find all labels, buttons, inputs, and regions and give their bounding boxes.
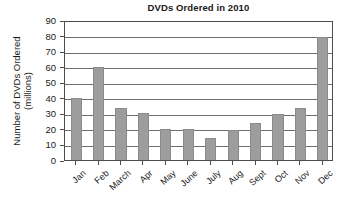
gridline: [65, 146, 332, 147]
bar-june: [183, 129, 194, 160]
y-axis-tick-label: 10: [0, 139, 56, 150]
bar-may: [160, 129, 171, 160]
x-axis-tick: [187, 161, 188, 165]
y-axis-tick: [60, 36, 64, 37]
bar-dec: [317, 37, 328, 160]
y-axis-tick-label: 70: [0, 46, 56, 57]
chart-screenshot: DVDs Ordered in 2010 Number of DVDs Orde…: [0, 0, 354, 199]
y-axis-tick: [60, 114, 64, 115]
x-axis-tick: [142, 161, 143, 165]
y-axis-tick: [60, 145, 64, 146]
y-axis-tick: [60, 67, 64, 68]
y-axis-tick: [60, 21, 64, 22]
x-axis-tick: [277, 161, 278, 165]
gridline: [65, 115, 332, 116]
gridline: [65, 130, 332, 131]
y-axis-tick: [60, 52, 64, 53]
y-axis-tick-label: 80: [0, 31, 56, 42]
bar-feb: [93, 67, 104, 160]
y-axis-tick-label: 90: [0, 15, 56, 26]
y-axis-tick: [60, 83, 64, 84]
bar-oct: [272, 114, 283, 160]
y-axis-tick-label: 0: [0, 155, 56, 166]
y-axis-tick-label: 30: [0, 108, 56, 119]
gridline: [65, 99, 332, 100]
gridline: [65, 68, 332, 69]
x-axis-tick: [232, 161, 233, 165]
chart-title: DVDs Ordered in 2010: [64, 2, 333, 13]
y-axis-tick-label: 50: [0, 77, 56, 88]
y-axis-tick-label: 60: [0, 62, 56, 73]
x-axis-tick: [120, 161, 121, 165]
x-axis-tick: [299, 161, 300, 165]
y-axis-tick-label: 40: [0, 93, 56, 104]
bar-nov: [295, 108, 306, 160]
bar-march: [115, 108, 126, 160]
x-axis-tick: [75, 161, 76, 165]
y-axis-tick: [60, 161, 64, 162]
bar-jan: [71, 98, 82, 160]
x-axis-tick: [210, 161, 211, 165]
y-axis-tick-label: 20: [0, 124, 56, 135]
gridline: [65, 84, 332, 85]
x-axis-tick: [98, 161, 99, 165]
x-axis-tick: [255, 161, 256, 165]
x-axis-tick: [165, 161, 166, 165]
gridline: [65, 53, 332, 54]
bar-july: [205, 138, 216, 160]
x-axis-tick: [322, 161, 323, 165]
gridline: [65, 37, 332, 38]
bar-sept: [250, 123, 261, 160]
plot-area: [64, 21, 333, 161]
bar-aug: [228, 130, 239, 160]
y-axis-tick: [60, 129, 64, 130]
y-axis-tick: [60, 98, 64, 99]
bar-apr: [138, 113, 149, 160]
